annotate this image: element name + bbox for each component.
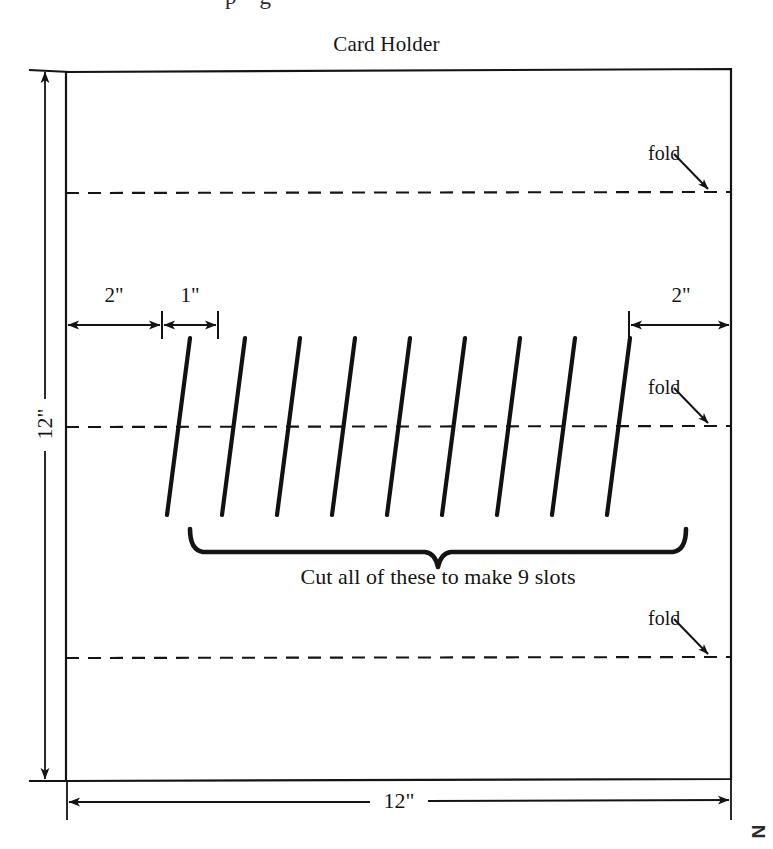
height-dimension-label: 12" [34,398,56,450]
fold-line-2 [66,657,731,658]
margin-left-dimension-label: 2" [88,285,140,306]
fold-label-middle: fold [648,377,680,397]
slot-spacing-dimensions [68,311,729,339]
fold-label-top: fold [648,143,680,163]
fold-line-0 [66,192,731,193]
width-dimension-label: 12" [373,790,425,812]
slot-pitch-dimension-label: 1" [164,285,216,306]
diagram-canvas: p g Card Holder [0,0,773,849]
margin-right-dimension-label: 2" [655,285,707,306]
slots-brace [190,529,686,567]
fold-label-bottom: fold [648,608,680,628]
corner-page-artifact: N [749,822,768,842]
slots-caption: Cut all of these to make 9 slots [188,566,688,588]
diagram-vector-layer [0,0,773,849]
